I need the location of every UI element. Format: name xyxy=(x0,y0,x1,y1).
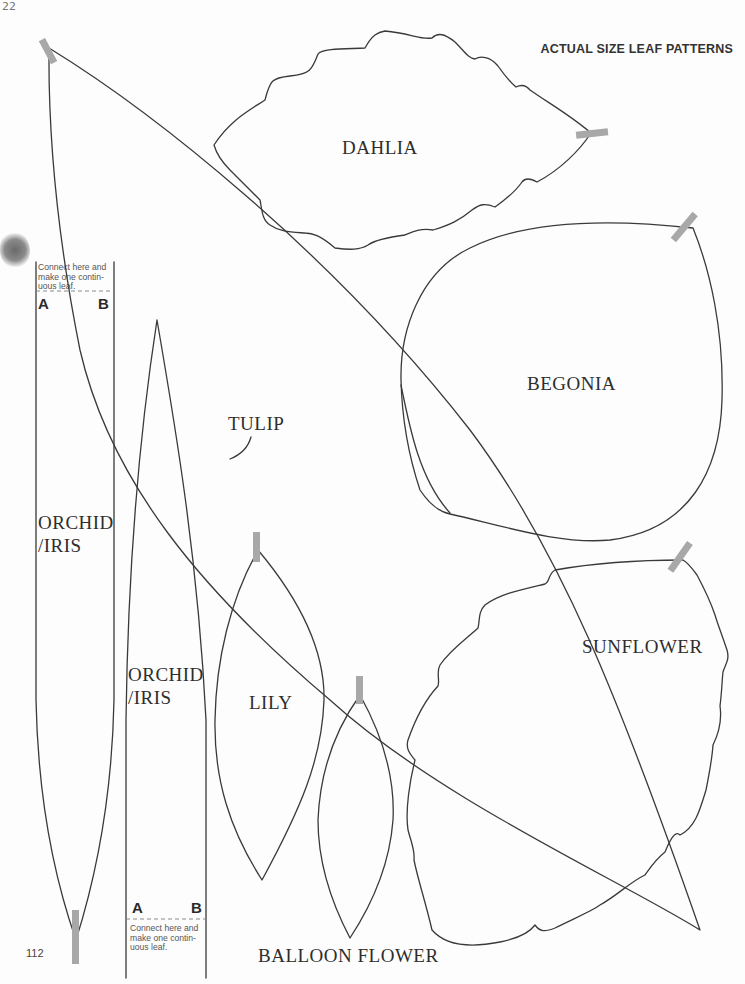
bottom-connect-note: Connect here and make one contin- uous l… xyxy=(130,924,198,953)
orchid-iris-left-outline xyxy=(36,262,114,940)
top-connect-note-line3: uous leaf. xyxy=(38,282,106,292)
document-page: 22 ACTUAL SIZE LEAF PATTERNS DAHLIA xyxy=(0,0,745,984)
orchid-iris-left-label-line1: ORCHID xyxy=(38,512,114,535)
lily-label: LILY xyxy=(249,693,292,712)
dahlia-label: DAHLIA xyxy=(342,138,418,157)
begonia-label: BEGONIA xyxy=(527,374,616,393)
orchid-iris-left-label-line2: /IRIS xyxy=(38,535,114,558)
lily-leaf-outline xyxy=(215,550,324,880)
balloon-flower-label: BALLOON FLOWER xyxy=(258,946,439,965)
begonia-tape-tab xyxy=(671,212,698,243)
dahlia-tape-tab xyxy=(576,128,609,138)
sunflower-label: SUNFLOWER xyxy=(582,637,703,656)
top-connector-label-a: A xyxy=(38,295,49,312)
bottom-connector-label-a: A xyxy=(132,899,143,916)
tulip-leaf-outline xyxy=(49,48,700,930)
bottom-connect-note-line3: uous leaf. xyxy=(130,943,198,953)
sunflower-tape-tab xyxy=(668,541,693,573)
orchid-iris-middle-label-line1: ORCHID xyxy=(128,664,204,687)
orchid-iris-middle-label: ORCHID /IRIS xyxy=(128,664,204,710)
top-connector-label-b: B xyxy=(98,295,109,312)
orchid-iris-left-label: ORCHID /IRIS xyxy=(38,512,114,558)
tulip-pointer-line xyxy=(230,437,251,459)
sunflower-leaf-outline xyxy=(407,560,728,945)
orchid-iris-middle-label-line2: /IRIS xyxy=(128,687,204,710)
balloon-flower-tape-tab xyxy=(356,676,363,704)
top-connect-note: Connect here and make one contin- uous l… xyxy=(38,263,106,292)
bottom-connector-label-b: B xyxy=(191,899,202,916)
orchid-iris-left-tape-tab xyxy=(72,910,79,964)
page-header: ACTUAL SIZE LEAF PATTERNS xyxy=(541,42,734,56)
orchid-iris-middle-outline xyxy=(126,320,206,978)
lily-tape-tab xyxy=(253,532,260,562)
tulip-label: TULIP xyxy=(228,414,284,433)
balloon-flower-leaf-outline xyxy=(318,695,393,938)
page-number: 112 xyxy=(26,947,44,959)
